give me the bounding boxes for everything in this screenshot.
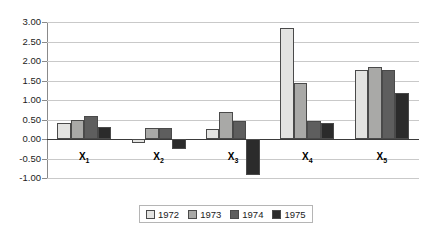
- legend-swatch-icon: [188, 210, 197, 219]
- x-axis-group-label: X1: [47, 151, 121, 164]
- bar-x4-1973[interactable]: [294, 83, 308, 139]
- y-tick-label: 2.50: [0, 36, 41, 47]
- legend-swatch-icon: [146, 210, 155, 219]
- legend-swatch-icon: [272, 210, 281, 219]
- y-tick-mark: [42, 100, 47, 101]
- legend: 1972197319741975: [139, 205, 313, 223]
- bar-x3-1972[interactable]: [206, 129, 220, 139]
- legend-label: 1972: [158, 209, 179, 220]
- bar-x5-1973[interactable]: [368, 67, 382, 139]
- x-axis-group-label: X4: [270, 151, 344, 164]
- bar-x2-1973[interactable]: [145, 128, 159, 139]
- y-tick-mark: [42, 139, 47, 140]
- x-axis-group-label: X3: [196, 151, 270, 164]
- bar-x4-1975[interactable]: [321, 123, 335, 139]
- x-axis-group-label: X2: [121, 151, 195, 164]
- y-tick-label: 1.00: [0, 94, 41, 105]
- legend-swatch-icon: [230, 210, 239, 219]
- bar-x1-1972[interactable]: [57, 123, 71, 139]
- gridline: [47, 178, 419, 179]
- bar-x3-1973[interactable]: [219, 112, 233, 139]
- bar-x5-1975[interactable]: [395, 93, 409, 139]
- y-tick-mark: [42, 22, 47, 23]
- legend-label: 1974: [242, 209, 263, 220]
- y-tick-label: 2.00: [0, 55, 41, 66]
- legend-label: 1973: [200, 209, 221, 220]
- legend-label: 1975: [284, 209, 305, 220]
- y-tick-label: 0.50: [0, 114, 41, 125]
- bar-x1-1975[interactable]: [98, 127, 112, 139]
- bar-x1-1973[interactable]: [71, 120, 85, 140]
- legend-item-1973[interactable]: 1973: [188, 209, 221, 220]
- bar-x4-1974[interactable]: [307, 121, 321, 139]
- bar-x1-1974[interactable]: [84, 116, 98, 139]
- bar-x5-1974[interactable]: [382, 70, 396, 139]
- y-tick-label: 0.00: [0, 133, 41, 144]
- bar-x2-1974[interactable]: [159, 128, 173, 139]
- y-tick-mark: [42, 81, 47, 82]
- legend-item-1975[interactable]: 1975: [272, 209, 305, 220]
- legend-item-1972[interactable]: 1972: [146, 209, 179, 220]
- y-tick-mark: [42, 61, 47, 62]
- bar-x5-1972[interactable]: [355, 70, 369, 139]
- legend-item-1974[interactable]: 1974: [230, 209, 263, 220]
- y-tick-mark: [42, 120, 47, 121]
- y-tick-mark: [42, 42, 47, 43]
- y-tick-mark: [42, 178, 47, 179]
- x-axis-group-label: X5: [345, 151, 419, 164]
- bar-x4-1972[interactable]: [280, 28, 294, 139]
- y-tick-label: -1.00: [0, 172, 41, 183]
- y-tick-label: -0.50: [0, 153, 41, 164]
- bar-x2-1975[interactable]: [172, 139, 186, 149]
- bar-x2-1972[interactable]: [132, 139, 146, 143]
- y-tick-label: 3.00: [0, 16, 41, 27]
- bar-x3-1974[interactable]: [233, 121, 247, 139]
- y-tick-label: 1.50: [0, 75, 41, 86]
- bar-chart: 3.002.502.001.501.000.500.00-0.50-1.00 X…: [0, 0, 424, 237]
